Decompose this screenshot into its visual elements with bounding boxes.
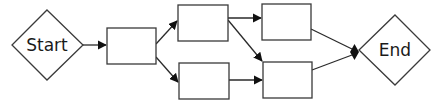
node-start: Start (12, 10, 83, 80)
edge-box1-to-box2 (156, 21, 177, 44)
node-box3 (179, 63, 229, 99)
edge-box2-to-box5 (228, 20, 262, 61)
edge-box5-to-end (312, 55, 352, 70)
start-label: Start (26, 35, 68, 55)
join-diamond-icon (350, 44, 359, 60)
flowchart-diagram: Start End (0, 0, 442, 106)
end-label: End (379, 40, 411, 60)
node-box1 (107, 28, 156, 64)
node-end: End (359, 15, 430, 85)
node-box4 (262, 4, 311, 40)
node-box5 (263, 62, 312, 98)
edge-box4-to-end (311, 29, 352, 49)
edge-box1-to-box3 (156, 57, 178, 82)
node-box2 (178, 5, 228, 41)
